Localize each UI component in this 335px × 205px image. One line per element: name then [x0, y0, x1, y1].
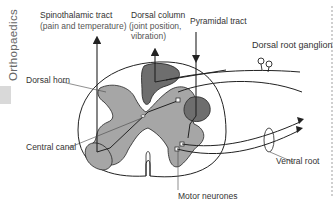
label-spinothalamic-tract: Spinothalamic tract: [40, 10, 112, 20]
lateral-corticospinal-region: [184, 97, 210, 122]
label-dorsal-column-sub2: vibration): [131, 31, 166, 41]
label-pyramidal-tract: Pyramidal tract: [190, 16, 247, 26]
label-spinothalamic-sub: (pain and temperature): [40, 21, 126, 31]
label-central-canal: Central canal: [26, 142, 76, 152]
dorsal-root-ganglion-cells: [258, 58, 272, 72]
label-dorsal-horn: Dorsal horn: [26, 75, 70, 85]
label-dorsal-column: Dorsal column: [131, 10, 185, 20]
label-ventral-root: Ventral root: [276, 156, 319, 166]
label-dorsal-root-ganglion: Dorsal root ganglion: [252, 40, 333, 50]
label-dorsal-column-sub1: (joint position,: [129, 21, 181, 31]
label-motor-neurones: Motor neurones: [178, 191, 238, 201]
